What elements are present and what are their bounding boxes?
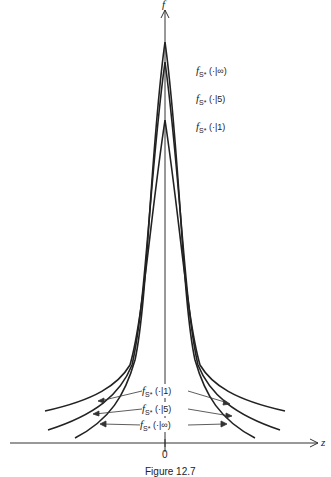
annotation-t5-top: fS* (·|5) [196,92,225,106]
annotation-t5-bottom: fS* (·|5) [142,402,171,416]
y-axis-label: f [162,0,165,10]
annotation-t1-top: fS* (·|1) [196,120,225,134]
origin-label: 0 [162,449,168,460]
annotation-normal-top: fS* (·|∞) [196,64,227,78]
figure-caption: Figure 12.7 [145,466,196,477]
annotation-t1-bottom: fS* (·|1) [142,384,171,398]
curve-t5 [48,62,280,430]
x-axis-label: z [321,436,325,448]
annotation-normal-bottom: fS* (·|∞) [140,418,171,432]
